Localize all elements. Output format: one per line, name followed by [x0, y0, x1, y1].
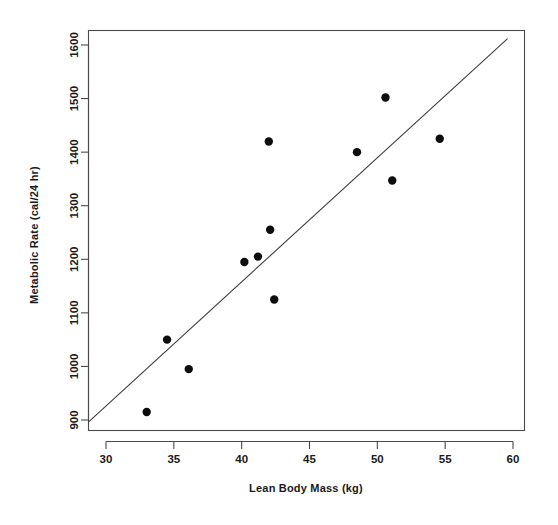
y-tick-label: 1000 [68, 354, 80, 380]
data-point [254, 252, 262, 260]
data-point [240, 258, 248, 266]
y-tick-label: 900 [68, 410, 80, 429]
x-tick-label: 60 [507, 453, 520, 465]
plot-svg: 9001000110012001300140015001600 30354045… [0, 0, 558, 525]
x-tick-label: 35 [167, 453, 180, 465]
x-axis-title: Lean Body Mass (kg) [249, 482, 363, 494]
scatter-plot-figure: 9001000110012001300140015001600 30354045… [0, 0, 558, 525]
data-point [436, 135, 444, 143]
x-tick-label: 55 [439, 453, 452, 465]
data-point [270, 295, 278, 303]
y-tick-label: 1400 [68, 139, 80, 165]
data-point [381, 93, 389, 101]
x-tick-label: 30 [100, 453, 113, 465]
y-tick-label: 1500 [68, 86, 80, 112]
data-point [388, 176, 396, 184]
data-point [266, 226, 274, 234]
data-point [353, 148, 361, 156]
y-axis-title: Metabolic Rate (cal/24 hr) [28, 166, 40, 304]
x-tick-label: 50 [371, 453, 384, 465]
data-point [163, 335, 171, 343]
y-tick-label: 1100 [68, 300, 80, 325]
x-tick-label: 40 [235, 453, 248, 465]
figure-background [0, 0, 558, 525]
y-tick-label: 1200 [68, 246, 80, 272]
y-tick-label: 1300 [68, 193, 80, 219]
x-tick-label: 45 [303, 453, 316, 465]
y-tick-label: 1600 [68, 32, 80, 58]
data-point [185, 365, 193, 373]
data-point [143, 408, 151, 416]
data-point [265, 137, 273, 145]
